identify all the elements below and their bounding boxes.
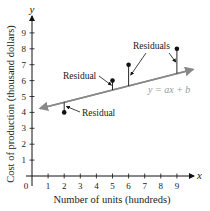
x-tick-label: 9 xyxy=(175,181,180,191)
y-tick-label: 7 xyxy=(22,60,27,70)
y-axis-letter: y xyxy=(29,3,35,15)
regression-residuals-chart: 123456789123456789 ResidualResidualResid… xyxy=(0,0,210,211)
x-axis-letter: x xyxy=(196,169,202,181)
x-tick-label: 1 xyxy=(46,181,51,191)
y-tick-label: 9 xyxy=(22,28,27,38)
data-point xyxy=(62,110,67,115)
y-tick-label: 6 xyxy=(22,76,27,86)
y-tick-label: 5 xyxy=(22,92,27,102)
x-tick-label: 8 xyxy=(159,181,164,191)
x-tick-label: 6 xyxy=(126,181,131,191)
annotation-label: Residuals xyxy=(133,41,170,51)
annotation-label: Residual xyxy=(82,108,116,118)
data-point xyxy=(126,62,131,67)
annotation-label: Residual xyxy=(63,71,97,81)
y-tick-label: 4 xyxy=(22,107,27,117)
y-axis-label: Cost of production (thousand dollars) xyxy=(5,25,17,183)
x-tick-label: 5 xyxy=(110,181,115,191)
y-tick-label: 3 xyxy=(22,123,27,133)
x-tick-label: 4 xyxy=(94,181,99,191)
x-tick-label: 7 xyxy=(142,181,147,191)
x-axis-label: Number of units (hundreds) xyxy=(54,194,171,206)
regression-line-label: y = ax + b xyxy=(147,84,190,95)
annotations: ResidualResidualResiduals xyxy=(63,41,176,118)
y-tick-label: 8 xyxy=(22,44,27,54)
data-point xyxy=(175,47,180,52)
y-tick-label: 1 xyxy=(22,155,27,165)
x-tick-label: 2 xyxy=(62,181,67,191)
y-tick-label: 2 xyxy=(22,139,27,149)
x-tick-label: 3 xyxy=(78,181,83,191)
data-point xyxy=(110,78,115,83)
origin-label: 0 xyxy=(24,181,29,191)
